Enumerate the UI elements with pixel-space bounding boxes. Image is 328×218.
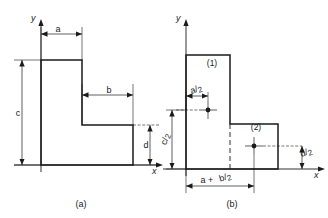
svg-text:c/2: c/2 — [159, 131, 174, 146]
panel-a: y x a b c — [14, 13, 163, 209]
engineering-diagram: y x a b c — [0, 0, 328, 218]
dimension-a-over-2: a/2 — [186, 82, 208, 97]
l-section-outline-b — [186, 55, 278, 169]
dimension-c: c — [16, 60, 22, 165]
dimension-a-label: a — [55, 24, 60, 34]
panel-a-y-axis-label: y — [30, 13, 36, 23]
dimension-d: d — [143, 125, 150, 165]
svg-text:b/2: b/2 — [218, 170, 233, 185]
dimension-d-label: d — [143, 140, 148, 150]
dimension-d-over-2: d/2 — [299, 145, 315, 169]
svg-text:d/2: d/2 — [299, 145, 315, 160]
dimension-a: a — [41, 24, 82, 34]
panel-a-x-axis-label: x — [151, 166, 157, 176]
dimension-a-plus-b-over-2: a + b/2 — [186, 170, 254, 186]
dimension-a-plus-b-over-2-prefix: a + — [201, 175, 214, 185]
centroid-marker-part-1 — [199, 101, 217, 119]
part-1-label: (1) — [207, 58, 218, 68]
dimension-b-label: b — [106, 85, 111, 95]
panel-a-caption: (a) — [76, 199, 87, 209]
l-section-outline-a — [41, 60, 133, 165]
part-2-label: (2) — [251, 122, 262, 132]
panel-b-caption: (b) — [227, 199, 238, 209]
figure-root: y x a b c — [0, 0, 328, 218]
y-axis-arrowhead-b — [183, 19, 188, 26]
panel-b-x-axis-label: x — [313, 170, 319, 180]
dimension-c-label: c — [16, 108, 21, 118]
dimension-b: b — [82, 85, 133, 95]
dimension-c-over-2: c/2 — [159, 110, 174, 169]
x-axis-arrowhead-b — [318, 166, 325, 171]
svg-text:a/2: a/2 — [189, 82, 205, 97]
y-axis-arrowhead — [38, 19, 43, 26]
centroid-marker-part-2 — [245, 137, 263, 155]
panel-b: y x (1) (2) — [159, 13, 325, 209]
panel-b-y-axis-label: y — [175, 13, 181, 23]
